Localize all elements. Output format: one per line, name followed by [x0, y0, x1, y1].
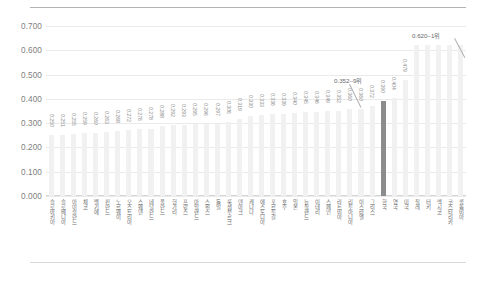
bar[interactable]	[171, 125, 176, 196]
bar-slot[interactable]	[278, 26, 289, 196]
bar-slot[interactable]	[322, 26, 333, 196]
bar-value-label: 0.276	[137, 108, 142, 121]
x-axis-category-label: 노르웨이	[115, 199, 120, 219]
bar[interactable]	[115, 131, 120, 196]
bar[interactable]	[447, 45, 452, 196]
bar[interactable]	[71, 134, 76, 196]
bar[interactable]	[270, 114, 275, 196]
bar-slot[interactable]	[79, 26, 90, 196]
bar[interactable]	[226, 122, 231, 196]
bar[interactable]	[160, 126, 165, 196]
bar[interactable]	[336, 111, 341, 196]
bar-value-label: 0.349	[325, 90, 330, 103]
bar[interactable]	[193, 124, 198, 196]
bar[interactable]	[370, 106, 375, 196]
x-axis-category-label: 체코	[82, 199, 87, 209]
bar-series: 0.2500.2510.2550.2590.2600.2630.2680.272…	[46, 26, 466, 196]
y-axis-tick-label: 0.400	[8, 94, 42, 103]
bar[interactable]	[93, 133, 98, 196]
bar[interactable]	[281, 114, 286, 196]
bar-slot[interactable]	[289, 26, 300, 196]
bar[interactable]	[248, 116, 253, 196]
bar-slot[interactable]	[411, 26, 422, 196]
bar-value-label: 0.372	[369, 85, 374, 98]
bar[interactable]	[325, 111, 330, 196]
bar-slot[interactable]	[389, 26, 400, 196]
y-axis-tick-label: 0.300	[8, 119, 42, 128]
x-axis-category-label: 멕시코	[435, 199, 440, 214]
x-axis-category-label: 스위스	[203, 199, 208, 214]
x-axis-category-label: 헝가리	[170, 199, 175, 214]
bar[interactable]	[126, 130, 131, 196]
bar-slot[interactable]	[46, 26, 57, 196]
bar[interactable]	[60, 135, 65, 196]
bar[interactable]	[82, 133, 87, 196]
y-axis-tick-label: 0.700	[8, 22, 42, 31]
x-axis-category-label: 스웨덴	[137, 199, 142, 214]
bar-slot[interactable]	[433, 26, 444, 196]
bar-slot[interactable]	[256, 26, 267, 196]
bar-value-label: 0.297	[214, 103, 219, 116]
bar-slot[interactable]	[234, 26, 245, 196]
bar-slot[interactable]	[57, 26, 68, 196]
x-axis-category-label: 프랑스	[181, 199, 186, 214]
bar[interactable]	[182, 125, 187, 196]
bar[interactable]	[403, 80, 408, 196]
bar-value-label: 0.306	[225, 101, 230, 114]
x-axis-category-label: 한국	[380, 199, 385, 209]
bar[interactable]	[314, 112, 319, 196]
bar-value-label: 0.278	[148, 107, 153, 120]
x-axis-category-label: 덴마크	[236, 199, 241, 214]
x-axis-category-label: 벨기에	[93, 199, 98, 214]
bar-value-label: 0.250	[49, 114, 54, 127]
bar[interactable]	[414, 45, 419, 196]
bar-slot[interactable]	[344, 26, 355, 196]
bar-slot[interactable]	[267, 26, 278, 196]
x-axis-category-label: 코스타리카	[446, 199, 451, 224]
bar[interactable]	[204, 124, 209, 196]
bar[interactable]	[259, 115, 264, 196]
bar-slot[interactable]	[333, 26, 344, 196]
bar-slot[interactable]	[300, 26, 311, 196]
bar[interactable]	[358, 109, 363, 196]
bar-value-label: 0.333	[259, 94, 264, 107]
bar-slot[interactable]	[355, 26, 366, 196]
x-axis-category-label: 핀란드	[104, 199, 109, 214]
bar-slot[interactable]	[367, 26, 378, 196]
bar-slot[interactable]	[245, 26, 256, 196]
x-axis-category-label: 이태리	[314, 199, 319, 214]
x-axis-category-label: 포르투갈	[270, 199, 275, 219]
bar[interactable]	[237, 119, 242, 196]
x-axis-category-label: 이스라엘	[358, 199, 363, 219]
bar[interactable]	[347, 109, 352, 196]
bar-value-label: 0.346	[314, 91, 319, 104]
bar-value-label: 0.339	[281, 93, 286, 106]
bar-slot[interactable]	[400, 26, 411, 196]
bar-value-label: 0.330	[247, 95, 252, 108]
bar[interactable]	[215, 124, 220, 196]
bar[interactable]	[425, 45, 430, 196]
bar[interactable]	[381, 101, 386, 196]
bar-value-label: 0.263	[104, 111, 109, 124]
bar-value-label: 0.479	[402, 59, 407, 72]
bar[interactable]	[137, 129, 142, 196]
bar-slot[interactable]	[422, 26, 433, 196]
bar[interactable]	[148, 129, 153, 197]
bar[interactable]	[49, 135, 54, 196]
bar[interactable]	[292, 113, 297, 196]
x-axis-category-label: 스페인	[325, 199, 330, 214]
bar[interactable]	[104, 132, 109, 196]
x-axis-categories: 슬로바키아슬로베니아아이슬란드체코벨기에핀란드노르웨이오스트리아스웨덴네덜란드폴…	[46, 199, 466, 259]
bar[interactable]	[303, 112, 308, 196]
bar-slot[interactable]	[378, 26, 389, 196]
bar-slot[interactable]	[311, 26, 322, 196]
x-axis-category-label: 독일	[214, 199, 219, 209]
x-axis-category-label: 캐나다	[247, 199, 252, 214]
bar-slot[interactable]	[68, 26, 79, 196]
bar[interactable]	[458, 45, 463, 196]
bar[interactable]	[436, 45, 441, 196]
bar[interactable]	[392, 98, 397, 196]
bar-slot[interactable]	[444, 26, 455, 196]
y-axis-tick-label: 0.200	[8, 143, 42, 152]
bar-value-label: 0.340	[292, 92, 297, 105]
